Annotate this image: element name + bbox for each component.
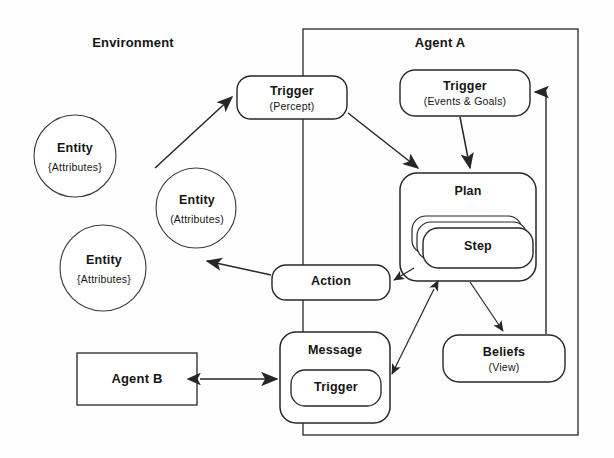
beliefs-sublabel: (View): [489, 361, 520, 373]
edge-trigger-events-to-plan: [460, 117, 470, 168]
entity-1-sublabel: {Attributes}: [48, 161, 102, 173]
edge-entity1-to-trigger-percept: [155, 97, 232, 168]
diagram-canvas: Environment Agent A Entity {Attributes} …: [0, 0, 614, 458]
message-trigger-shape: [291, 370, 381, 406]
action-shape: [272, 265, 390, 300]
entity-2-sublabel: (Attributes): [170, 213, 224, 225]
beliefs-label: Beliefs: [483, 345, 525, 359]
trigger-events-label: Trigger: [443, 79, 487, 93]
entity-2-label: Entity: [179, 193, 215, 207]
entity-1: Entity {Attributes}: [34, 138, 116, 176]
entity-1-label: Entity: [57, 141, 93, 155]
edge-trigger-percept-to-plan: [348, 113, 418, 168]
trigger-percept-label: Trigger: [270, 84, 314, 98]
beliefs-node[interactable]: Beliefs (View): [443, 340, 565, 378]
edge-action-to-entity2: [207, 261, 271, 275]
edge-plan-message-bidirectional: [392, 289, 434, 374]
trigger-events-sublabel: (Events & Goals): [424, 95, 507, 107]
agent-b-shape: [77, 353, 197, 405]
trigger-percept-node[interactable]: Trigger (Percept): [237, 78, 347, 117]
edge-plan-to-beliefs: [470, 282, 503, 331]
entity-2: Entity (Attributes): [156, 190, 238, 228]
trigger-events-node[interactable]: Trigger (Events & Goals): [400, 73, 530, 113]
trigger-percept-sublabel: (Percept): [270, 100, 315, 112]
entity-3-sublabel: {Attributes}: [77, 273, 131, 285]
diagram-vector-layer: [0, 0, 614, 458]
entity-3: Entity {Attributes}: [62, 250, 146, 288]
entity-3-label: Entity: [86, 253, 122, 267]
step-shape: [423, 228, 533, 268]
